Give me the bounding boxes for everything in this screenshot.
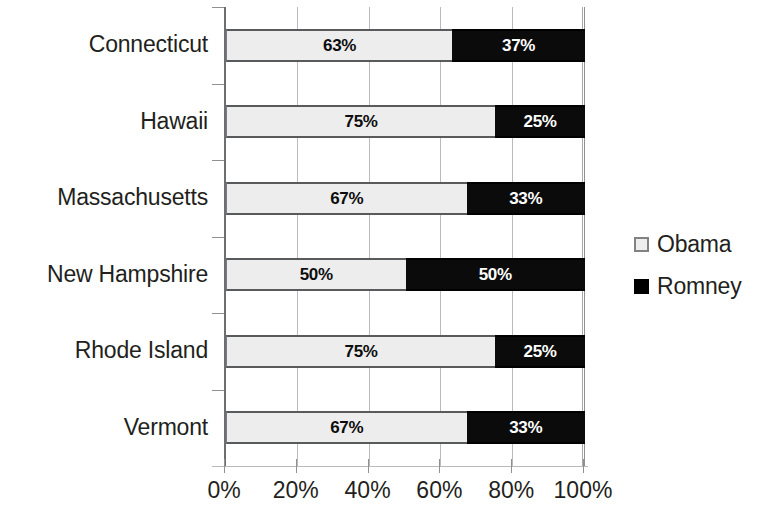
bar-value-label: 33% (509, 419, 542, 436)
bar-segment-obama: 75% (226, 105, 495, 138)
bar-segment-obama: 67% (226, 182, 467, 215)
x-axis-tick (439, 459, 440, 473)
y-axis-label-hawaii: Hawaii (0, 110, 208, 133)
x-axis-tick (296, 459, 297, 473)
legend-label: Obama (657, 233, 731, 256)
legend-item-obama[interactable]: Obama (634, 228, 773, 260)
bar-value-label: 75% (345, 113, 378, 130)
y-axis-tick (212, 7, 224, 8)
y-axis-label-rhode-island: Rhode Island (0, 339, 208, 362)
bar-value-label: 67% (330, 419, 363, 436)
bar-segment-obama: 75% (226, 335, 495, 368)
bar-segment-obama: 63% (226, 29, 452, 62)
x-axis-tick-label: 60% (399, 477, 479, 503)
y-axis-tick (212, 390, 224, 391)
y-axis-label-vermont: Vermont (0, 416, 208, 439)
x-axis-tick-label: 0% (184, 477, 264, 503)
y-axis-tick (212, 84, 224, 85)
plot-area: 63%37%75%25%67%33%50%50%75%25%67%33% (224, 7, 583, 466)
y-axis-tick (212, 237, 224, 238)
y-axis-tick (212, 313, 224, 314)
bar-value-label: 50% (479, 266, 512, 283)
bar-segment-obama: 67% (226, 411, 467, 444)
bar-segment-romney: 25% (495, 105, 585, 138)
legend-swatch-icon (634, 279, 649, 294)
legend-label: Romney (657, 275, 741, 298)
x-axis-tick (511, 459, 512, 473)
legend-item-romney[interactable]: Romney (634, 270, 773, 302)
bar-segment-obama: 50% (226, 258, 406, 291)
bar-value-label: 67% (330, 190, 363, 207)
bar-value-label: 63% (323, 37, 356, 54)
bar-value-label: 37% (502, 37, 535, 54)
bar-segment-romney: 33% (467, 182, 585, 215)
gridline (584, 7, 585, 466)
x-axis-tick-label: 100% (543, 477, 623, 503)
bar-segment-romney: 37% (452, 29, 585, 62)
x-axis-line (212, 466, 588, 467)
bar-row-vermont: 67%33% (226, 411, 585, 444)
bar-row-massachusetts: 67%33% (226, 182, 585, 215)
x-axis-tick-label: 40% (328, 477, 408, 503)
y-axis-label-massachusetts: Massachusetts (0, 186, 208, 209)
gridline (369, 7, 370, 466)
bar-segment-romney: 50% (406, 258, 586, 291)
chart-legend: ObamaRomney (634, 228, 773, 312)
x-axis-tick-labels: 0%20%40%60%80%100% (0, 477, 773, 507)
x-axis-tick (368, 459, 369, 473)
y-axis-category-labels: ConnecticutHawaiiMassachusettsNew Hampsh… (0, 7, 208, 466)
gridline (297, 7, 298, 466)
bar-row-rhode-island: 75%25% (226, 335, 585, 368)
bar-value-label: 75% (345, 343, 378, 360)
stacked-bar-chart: ConnecticutHawaiiMassachusettsNew Hampsh… (0, 0, 773, 518)
bar-row-connecticut: 63%37% (226, 29, 585, 62)
gridline (512, 7, 513, 466)
y-axis-label-new-hampshire: New Hampshire (0, 263, 208, 286)
bar-value-label: 25% (524, 343, 557, 360)
gridline (440, 7, 441, 466)
bar-row-hawaii: 75%25% (226, 105, 585, 138)
legend-swatch-icon (634, 237, 649, 252)
bar-segment-romney: 33% (467, 411, 585, 444)
x-axis-tick (583, 459, 584, 473)
bar-value-label: 33% (509, 190, 542, 207)
bar-value-label: 25% (524, 113, 557, 130)
bar-segment-romney: 25% (495, 335, 585, 368)
bar-value-label: 50% (300, 266, 333, 283)
y-axis-label-connecticut: Connecticut (0, 33, 208, 56)
x-axis-tick-label: 80% (471, 477, 551, 503)
x-axis-tick-label: 20% (256, 477, 336, 503)
y-axis-tick (212, 160, 224, 161)
x-axis-tick (224, 459, 225, 473)
bar-row-new-hampshire: 50%50% (226, 258, 585, 291)
